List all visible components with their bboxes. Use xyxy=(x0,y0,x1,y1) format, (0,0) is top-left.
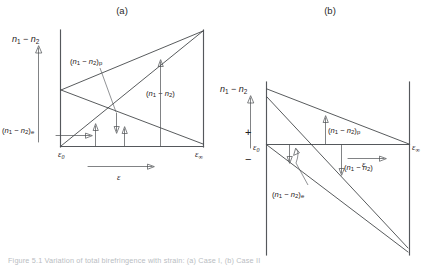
panel-b-y-axis-label: n1 − n2 xyxy=(220,84,248,95)
panel-a-measure-photoelastic xyxy=(114,113,127,146)
panel-a-x-start-label: ε0 xyxy=(58,149,64,160)
panel-a-measure-total xyxy=(158,60,163,146)
panel-a-line-strain xyxy=(61,90,203,144)
panel-b-annotation-strain-label: (n1 − n2)e xyxy=(272,190,305,199)
panel-a-annotation-strain-label: (n1 − n2)e xyxy=(2,126,35,135)
panel-a-y-axis-arrow xyxy=(36,46,42,142)
panel-a: (a) n1 − n2 (n1 − n2)p xyxy=(2,5,204,182)
panel-b-sign-negative: − xyxy=(245,153,251,165)
panel-b-annotation-strain-leader xyxy=(296,163,308,185)
panel-a-measure-strain xyxy=(93,124,98,146)
panel-b-x-axis-arrow xyxy=(348,156,386,161)
panel-b-title: (b) xyxy=(324,5,336,16)
panel-b-line-photoelastic xyxy=(267,89,409,144)
panel-a-x-axis-arrow xyxy=(88,164,154,169)
panel-b-y-axis-arrow xyxy=(248,96,254,148)
panel-a-title: (a) xyxy=(116,5,128,16)
panel-a-annotation-photoelastic-label: (n1 − n2)p xyxy=(70,57,103,66)
panel-a-line-total xyxy=(61,31,203,146)
figure-caption: Figure 5.1 Variation of total birefringe… xyxy=(8,256,432,265)
figure-canvas: (a) n1 − n2 (n1 − n2)p xyxy=(0,0,440,271)
panel-a-x-end-label: ε∞ xyxy=(195,149,203,160)
panel-b-x-start-label: ε0 xyxy=(253,142,259,153)
panel-b-sign-positive: + xyxy=(245,126,251,138)
panel-a-measure-strain-horizontal xyxy=(56,133,92,138)
panel-b-annotation-photoelastic-label: (n1 − n2)p xyxy=(328,126,361,135)
panel-b-line-total xyxy=(267,97,408,248)
panel-a-y-axis-label: n1 − n2 xyxy=(12,34,40,45)
figure-container: (a) n1 − n2 (n1 − n2)p xyxy=(0,0,440,271)
panel-a-x-axis-label: ε xyxy=(117,172,121,182)
panel-b: (b) n1 − n2 + − xyxy=(220,5,420,255)
panel-b-x-end-label: ε∞ xyxy=(412,142,420,153)
panel-b-annotation-total-label: (n1 − n2) xyxy=(344,163,373,172)
